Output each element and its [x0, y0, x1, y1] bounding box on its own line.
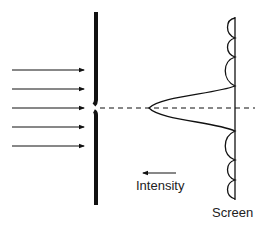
screen-label: Screen	[212, 205, 253, 220]
barrier-lower	[94, 111, 96, 205]
slit-barrier	[94, 12, 96, 205]
intensity-label: Intensity	[136, 178, 184, 193]
incident-rays	[12, 70, 84, 146]
diffraction-diagram	[0, 0, 272, 231]
barrier-upper	[94, 12, 96, 105]
